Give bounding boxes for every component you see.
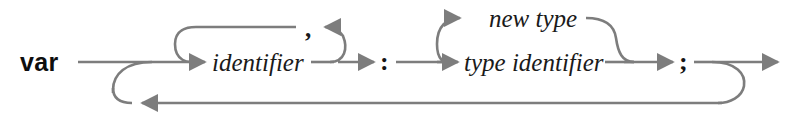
rail-return-right-curve <box>712 62 744 103</box>
terminal-comma: , <box>305 16 311 41</box>
rail-entry-fork-down <box>113 62 152 93</box>
terminal-colon: : <box>380 49 389 75</box>
nonterminal-new-type: new type <box>489 6 577 31</box>
terminal-var: var <box>20 50 58 75</box>
rail-return-left-curve <box>113 88 132 103</box>
nonterminal-identifier: identifier <box>212 50 304 75</box>
rail-loop-right-curve <box>325 27 345 62</box>
rail-fork-up-new-type <box>437 18 460 62</box>
rail-loop-left-curve <box>175 27 196 62</box>
terminal-semicolon: ; <box>679 49 688 75</box>
nonterminal-type-identifier: type identifier <box>464 50 604 75</box>
railroad-track-graphic <box>0 0 785 117</box>
syntax-diagram: var identifier , : new type type identif… <box>0 0 785 117</box>
